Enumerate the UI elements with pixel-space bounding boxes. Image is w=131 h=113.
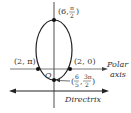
label-top-den: 2 xyxy=(70,12,74,19)
point-left xyxy=(36,67,40,71)
label-right-point: (2, 0) xyxy=(74,57,96,66)
directrix-left-arrow-icon xyxy=(9,89,16,94)
label-bottom-theta-den: 2 xyxy=(85,81,89,88)
label-bottom-theta-num: 3π xyxy=(84,73,92,80)
origin-label: O xyxy=(45,71,52,80)
polar-axis-label-2: axis xyxy=(110,70,126,79)
point-bottom xyxy=(52,78,56,82)
polar-axis-label-1: Polar xyxy=(106,60,129,69)
label-top-num: π xyxy=(70,4,74,11)
label-top-open: (6, xyxy=(58,7,69,16)
polar-diagram: (6, π 2 ) (2, π) (2, 0) O Polar axis ( 6… xyxy=(0,0,131,113)
directrix-right-arrow-icon xyxy=(102,89,109,94)
label-bottom-r-den: 5 xyxy=(75,81,79,88)
label-left-point: (2, π) xyxy=(14,57,36,66)
label-bottom-r-num: 6 xyxy=(75,73,79,80)
directrix-label: Directrix xyxy=(64,95,102,104)
svg-text:(: ( xyxy=(71,77,74,86)
point-top xyxy=(52,18,56,22)
point-right xyxy=(68,67,72,71)
svg-text:,: , xyxy=(80,77,83,86)
svg-text:): ) xyxy=(76,7,79,16)
svg-text:): ) xyxy=(92,77,95,86)
